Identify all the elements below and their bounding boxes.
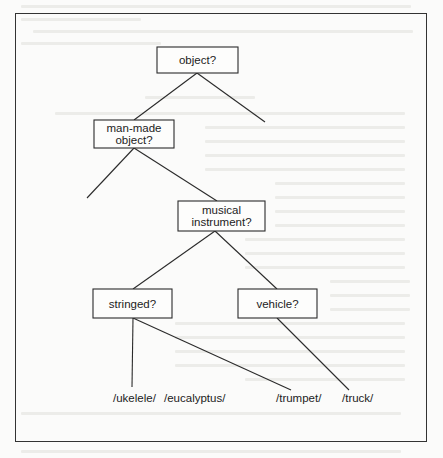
leaf-label: /eucalyptus/	[164, 392, 226, 404]
decision-tree: object?man-madeobject?musicalinstrument?…	[0, 0, 443, 458]
tree-edge	[134, 73, 197, 120]
tree-edge	[277, 318, 349, 390]
tree-edge	[133, 231, 215, 289]
tree-node-man-made: man-madeobject?	[94, 120, 174, 148]
tree-edge	[87, 148, 134, 198]
tree-edge	[215, 231, 277, 289]
leaf-label: /truck/	[342, 392, 374, 404]
node-label: man-made	[107, 122, 162, 134]
tree-node-stringed: stringed?	[93, 289, 172, 318]
node-label: instrument?	[191, 216, 251, 228]
node-label: stringed?	[109, 298, 156, 310]
tree-edge	[197, 73, 265, 122]
node-label: musical	[202, 204, 241, 216]
tree-nodes: object?man-madeobject?musicalinstrument?…	[93, 47, 317, 318]
tree-leaves: /ukelele//eucalyptus//trumpet//truck/	[113, 392, 374, 404]
tree-edge	[132, 318, 133, 387]
node-label: object?	[115, 134, 152, 146]
leaf-label: /ukelele/	[113, 392, 157, 404]
node-label: object?	[179, 54, 216, 66]
tree-node-vehicle: vehicle?	[238, 289, 317, 318]
leaf-label: /trumpet/	[276, 392, 322, 404]
tree-edge	[133, 318, 291, 390]
tree-edge	[134, 148, 217, 201]
node-label: vehicle?	[256, 298, 298, 310]
tree-node-musical: musicalinstrument?	[178, 201, 265, 231]
tree-node-object: object?	[157, 47, 238, 73]
